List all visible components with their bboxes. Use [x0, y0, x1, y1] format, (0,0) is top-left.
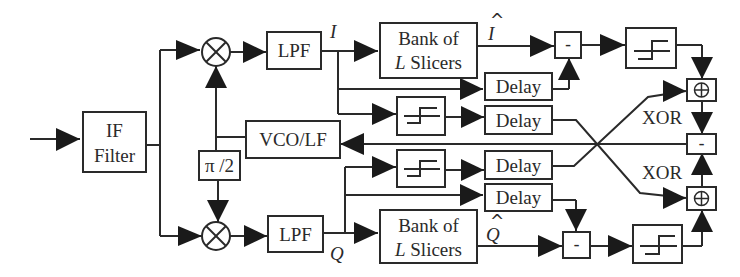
arrow-minus-from-xor-bottom	[691, 153, 713, 175]
delay-block-1: Delay	[485, 73, 552, 100]
arrow-sub-i-delay	[558, 58, 580, 80]
mixer-i	[202, 38, 230, 66]
q-hat-letter: Q	[486, 224, 500, 245]
arrow-delay4-in	[460, 184, 483, 206]
if-filter-label-line2: Filter	[94, 145, 136, 166]
delay-block-3: Delay	[485, 151, 552, 179]
arrow-sub-q-delay	[565, 209, 587, 231]
slicer-top-block	[626, 28, 676, 68]
signal-i-label: I	[329, 21, 338, 42]
delay-3-label: Delay	[496, 155, 542, 176]
signal-q-label: Q	[330, 243, 344, 264]
arrow-xor-bottom-from-slicer	[691, 210, 713, 232]
bank-of-slicers-i: Bank of L Slicers	[380, 23, 477, 78]
bank-q-label-line1: Bank of	[398, 215, 459, 236]
phase-shift-block: π /2	[199, 151, 240, 180]
minus-icon: -	[698, 133, 704, 153]
vco-lf-label: VCO/LF	[259, 129, 327, 150]
arrow-xor-top-in	[663, 80, 686, 102]
arrow-sub-i-in	[530, 35, 554, 57]
xor-bottom-block	[687, 187, 716, 210]
arrow-delay3-in	[461, 159, 484, 181]
delay-block-4: Delay	[485, 184, 552, 211]
arrow-slicer-top-in	[600, 34, 625, 56]
arrow-xor-top-from-slicer	[691, 57, 713, 79]
bank-q-label-line2: L Slicers	[394, 239, 462, 260]
bank-i-label-line1: Bank of	[398, 28, 459, 49]
lpf-i-block: LPF	[267, 32, 321, 69]
delay-block-2: Delay	[485, 106, 552, 134]
arrow-sub-q-in	[538, 235, 562, 257]
arrow-input	[56, 128, 80, 151]
arrow-slicer-q-in	[372, 156, 396, 178]
lpf-q-block: LPF	[268, 216, 323, 252]
delay-2-label: Delay	[496, 110, 542, 131]
phase-shift-label: π /2	[205, 155, 234, 176]
slicer-bottom-block	[633, 225, 682, 263]
arrow-slicer-i-in	[372, 103, 396, 125]
arrow-minus-from-xor-top	[691, 112, 713, 134]
slicer-q-block	[397, 150, 445, 187]
arrow-slicer-bottom-in	[608, 235, 632, 257]
minus-icon: -	[573, 234, 579, 254]
arrow-delay2-in	[461, 106, 484, 128]
i-hat-label: ^ I	[487, 10, 504, 44]
minus-icon: -	[565, 34, 571, 54]
arrow-bank-q-in	[354, 222, 378, 244]
q-hat-label: ^ Q	[486, 211, 504, 245]
arrow-mixer-q-in	[178, 226, 202, 246]
cross-wire-1	[552, 120, 686, 198]
slicer-i-block	[397, 97, 445, 135]
xor-top-annotation: XOR	[642, 107, 682, 128]
arrow-delay1-in	[460, 78, 483, 100]
arrow-lpf-i-in	[243, 41, 266, 63]
if-filter-block: IF Filter	[83, 112, 146, 172]
cross-wire-2	[552, 91, 686, 166]
vco-lf-block: VCO/LF	[246, 121, 340, 158]
arrow-vco-in	[340, 133, 364, 155]
arrow-lo-i	[205, 66, 227, 88]
xor-bottom-annotation: XOR	[642, 162, 682, 183]
lpf-i-label: LPF	[278, 40, 311, 61]
arrow-mixer-i-in	[176, 40, 200, 60]
subtractor-output: -	[687, 133, 716, 154]
xor-top-block	[687, 79, 716, 101]
bank-i-label-line2: L Slicers	[394, 52, 462, 73]
arrow-lpf-q-in	[244, 225, 267, 247]
arrow-lo-q	[207, 200, 229, 222]
arrow-xor-bottom-in	[663, 187, 686, 209]
quadrature-demodulator-diagram: IF Filter π /2 VCO/LF LPF LPF I Q Bank o…	[0, 0, 740, 277]
delay-1-label: Delay	[496, 76, 542, 97]
arrow-bank-i-in	[354, 40, 378, 62]
bank-of-slicers-q: Bank of L Slicers	[380, 210, 477, 263]
subtractor-i: -	[555, 32, 581, 58]
if-filter-label-line1: IF	[106, 120, 123, 141]
delay-4-label: Delay	[496, 187, 542, 208]
mixer-q	[202, 222, 230, 250]
subtractor-q: -	[563, 232, 590, 258]
lpf-q-label: LPF	[279, 224, 312, 245]
